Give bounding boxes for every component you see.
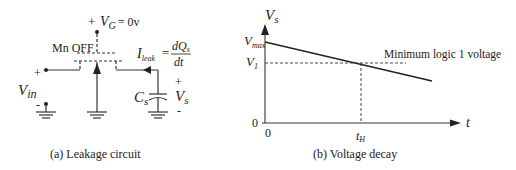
vin-terminal-dot xyxy=(44,68,48,72)
vmax-label: Vmax xyxy=(244,33,266,50)
vin-minus: - xyxy=(36,98,40,112)
gate-plus-label: + xyxy=(88,14,95,29)
vs-plus: + xyxy=(175,75,182,89)
transistor-label: Mn OFF xyxy=(52,41,94,55)
svg-text:dQs: dQs xyxy=(172,39,190,54)
y-axis-label: Vs xyxy=(265,7,278,25)
vin-plus: + xyxy=(34,66,41,80)
min-logic-1-annotation: Minimum logic 1 voltage xyxy=(384,48,501,61)
v1-label: V1 xyxy=(246,54,258,71)
svg-text:dt: dt xyxy=(174,55,184,69)
leak-current-equation: Ileak = dQs dt xyxy=(136,39,191,69)
circuit-caption: (a) Leakage circuit xyxy=(50,147,141,161)
capacitor-label: Cs xyxy=(134,89,148,107)
ground-icon xyxy=(87,112,107,118)
gate-terminal-dot xyxy=(95,30,99,34)
svg-text:=: = xyxy=(162,45,169,60)
y-axis-arrow-icon xyxy=(261,24,269,35)
plot-caption: (b) Voltage decay xyxy=(313,147,397,161)
voltage-decay-plot xyxy=(261,24,461,127)
body-arrow-icon xyxy=(93,63,101,74)
th-label: tH xyxy=(356,129,366,144)
y-zero-label: 0 xyxy=(252,116,258,130)
vs-minus: - xyxy=(177,104,181,118)
svg-text:Ileak: Ileak xyxy=(136,46,155,63)
gate-voltage-label: VG= 0v xyxy=(100,14,140,31)
x-zero-label: 0 xyxy=(265,126,271,140)
x-axis-label: t xyxy=(466,115,471,130)
vin-label: Vin xyxy=(18,82,37,101)
ground-icon xyxy=(148,112,168,118)
x-axis-arrow-icon xyxy=(450,120,461,127)
leak-current-arrow-icon xyxy=(143,66,151,74)
